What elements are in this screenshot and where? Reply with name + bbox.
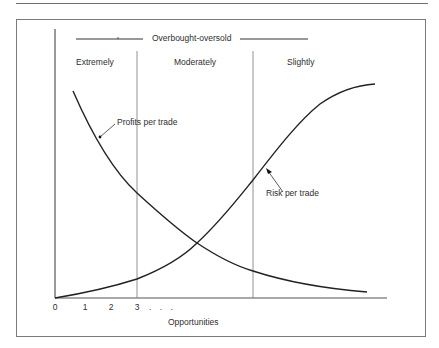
zone-label-slightly: Slightly (287, 57, 314, 67)
zone-label-extremely: Extremely (76, 57, 114, 67)
chart-canvas (0, 0, 439, 348)
risk-leader-arrowhead (266, 168, 272, 174)
x-tick-0: 0 (53, 302, 58, 312)
zone-label-moderately: Moderately (174, 57, 216, 67)
header-title: Overbought-oversold (152, 33, 231, 43)
x-tick-1: 1 (83, 302, 88, 312)
profits-leader-line (100, 124, 115, 137)
x-tick-2: 2 (109, 302, 114, 312)
x-tick-3: 3 (135, 302, 140, 312)
x-axis-label: Opportunities (168, 317, 219, 327)
profits-per-trade-label: Profits per trade (117, 117, 177, 127)
profits-leader-dot (99, 136, 102, 139)
risk-per-trade-curve (55, 84, 375, 298)
risk-per-trade-label: Risk per trade (266, 188, 319, 198)
x-tick-ellipsis: . . . (149, 302, 176, 312)
